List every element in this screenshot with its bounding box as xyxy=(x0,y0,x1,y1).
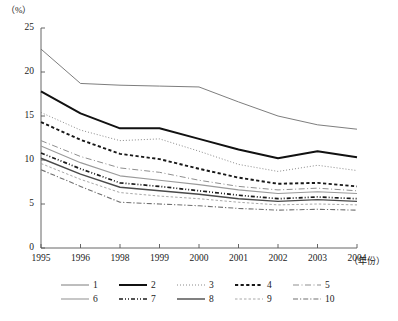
legend-row-1: 12345 xyxy=(60,278,360,292)
legend-item-8[interactable]: 8 xyxy=(176,294,234,304)
legend-swatch-4 xyxy=(234,280,264,290)
legend-swatch-7 xyxy=(118,294,148,304)
legend-label-8: 8 xyxy=(209,294,214,304)
legend-row-2: 678910 xyxy=(60,292,360,306)
legend-item-4[interactable]: 4 xyxy=(234,280,292,290)
legend-label-3: 3 xyxy=(209,280,214,290)
legend-label-6: 6 xyxy=(93,294,98,304)
legend-swatch-6 xyxy=(60,294,90,304)
legend-swatch-2 xyxy=(118,280,148,290)
legend-label-5: 5 xyxy=(325,280,330,290)
plot-area xyxy=(0,0,398,321)
legend-item-1[interactable]: 1 xyxy=(60,280,118,290)
legend-label-2: 2 xyxy=(151,280,156,290)
legend-label-10: 10 xyxy=(325,294,335,304)
legend-label-7: 7 xyxy=(151,294,156,304)
legend-swatch-9 xyxy=(234,294,264,304)
legend-label-1: 1 xyxy=(93,280,98,290)
legend-label-4: 4 xyxy=(267,280,272,290)
legend-item-10[interactable]: 10 xyxy=(292,294,350,304)
series-lines xyxy=(41,49,357,210)
legend-item-3[interactable]: 3 xyxy=(176,280,234,290)
legend-swatch-3 xyxy=(176,280,206,290)
line-chart: （%） （年份） 0510152025 19951996199819992000… xyxy=(0,0,398,321)
legend-swatch-5 xyxy=(292,280,322,290)
series-line-2 xyxy=(41,91,357,158)
legend-item-7[interactable]: 7 xyxy=(118,294,176,304)
legend-item-5[interactable]: 5 xyxy=(292,280,350,290)
series-line-10 xyxy=(41,170,357,210)
legend-item-6[interactable]: 6 xyxy=(60,294,118,304)
legend-swatch-10 xyxy=(292,294,322,304)
legend-label-9: 9 xyxy=(267,294,272,304)
chart-legend: 12345 678910 xyxy=(60,278,360,306)
legend-item-9[interactable]: 9 xyxy=(234,294,292,304)
legend-item-2[interactable]: 2 xyxy=(118,280,176,290)
legend-swatch-1 xyxy=(60,280,90,290)
legend-swatch-8 xyxy=(176,294,206,304)
